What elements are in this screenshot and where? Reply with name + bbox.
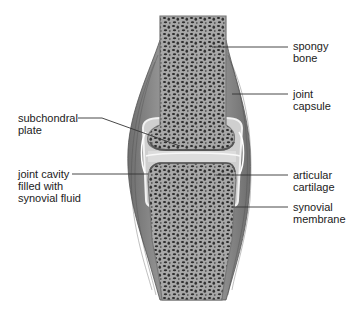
upper-bone-shape xyxy=(148,16,235,150)
label-joint-cavity: joint cavity filled with synovial fluid xyxy=(18,168,81,204)
label-spongy-bone: spongy bone xyxy=(293,40,328,64)
lower-bone-shape xyxy=(148,163,236,300)
synovial-joint-diagram: spongy bone joint capsule subchondral pl… xyxy=(0,0,353,310)
label-articular-cartilage: articular cartilage xyxy=(293,169,335,193)
label-joint-capsule: joint capsule xyxy=(293,88,331,112)
label-subchondral-plate: subchondral plate xyxy=(18,112,78,136)
label-synovial-membrane: synovial membrane xyxy=(293,201,346,225)
